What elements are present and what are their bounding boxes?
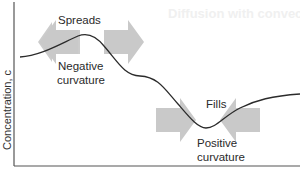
positive-curvature-label-line1: Positive [197,136,237,150]
fills-label: Fills [206,97,226,111]
y-axis-label: Concentration, c [1,70,13,150]
positive-curvature-label-line2: curvature [197,150,245,164]
diagram-graphics [0,0,300,174]
negative-curvature-label-line2: curvature [57,73,105,87]
concentration-curvature-diagram: Diffusion with convection Concentration,… [0,0,300,174]
negative-curvature-label-line1: Negative [58,59,103,73]
spreads-label: Spreads [58,13,101,27]
